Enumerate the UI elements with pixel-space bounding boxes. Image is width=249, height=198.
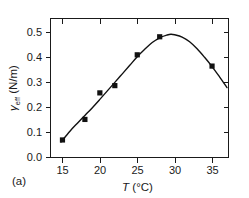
x-tick-label: 15 <box>56 164 68 176</box>
x-tick-labels: 15 20 25 30 35 <box>56 164 218 176</box>
y-tick-label: 0.2 <box>27 101 42 113</box>
data-point-marker <box>209 63 214 68</box>
data-point-marker <box>97 90 102 95</box>
x-axis-ticks-top <box>63 19 213 24</box>
x-axis-title: T (°C) <box>122 181 153 193</box>
figure-panel-a: 0.0 0.1 0.2 0.3 0.4 0.5 15 20 25 30 35 T… <box>0 0 249 198</box>
x-axis-ticks-bottom <box>63 158 213 163</box>
plot-frame <box>51 19 229 158</box>
y-tick-labels: 0.0 0.1 0.2 0.3 0.4 0.5 <box>27 26 42 163</box>
y-tick-label: 0.3 <box>27 76 42 88</box>
data-point-marker <box>112 83 117 88</box>
y-axis-title: γeff (N/m) <box>7 65 22 111</box>
y-axis-ticks-left <box>46 33 51 158</box>
chart-svg: 0.0 0.1 0.2 0.3 0.4 0.5 15 20 25 30 35 T… <box>0 0 249 198</box>
y-tick-label: 0.1 <box>27 126 42 138</box>
data-point-marker <box>60 137 65 142</box>
y-tick-label: 0.4 <box>27 51 42 63</box>
svg-text:γeff (N/m): γeff (N/m) <box>7 65 22 111</box>
data-series-curve <box>61 34 227 142</box>
x-axis-units: (°C) <box>132 181 153 193</box>
data-series-markers <box>60 34 215 142</box>
y-tick-label: 0.5 <box>27 26 42 38</box>
x-tick-label: 25 <box>131 164 143 176</box>
x-tick-label: 35 <box>206 164 218 176</box>
data-point-marker <box>82 117 87 122</box>
x-tick-label: 20 <box>94 164 106 176</box>
y-tick-label: 0.0 <box>27 151 42 163</box>
panel-label: (a) <box>12 175 26 187</box>
x-tick-label: 30 <box>169 164 181 176</box>
data-point-marker <box>135 52 140 57</box>
svg-text:T (°C): T (°C) <box>122 181 153 193</box>
data-point-marker <box>157 34 162 39</box>
y-axis-units: (N/m) <box>7 65 19 94</box>
x-axis-symbol: T <box>122 181 130 193</box>
